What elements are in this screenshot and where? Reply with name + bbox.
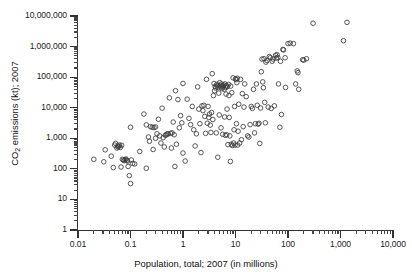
scatter-point (173, 164, 178, 169)
scatter-point (209, 130, 214, 135)
scatter-point (188, 122, 193, 127)
scatter-point (229, 90, 234, 95)
x-tick-minor (118, 230, 119, 234)
y-tick-label: 10,000,000 (25, 11, 67, 20)
y-tick-major (70, 199, 78, 200)
scatter-point (214, 131, 219, 136)
scatter-point (126, 164, 131, 169)
scatter-point (173, 88, 178, 93)
scatter-point (242, 105, 247, 110)
x-tick-minor (232, 230, 233, 234)
scatter-point (193, 144, 198, 149)
scatter-point (225, 107, 230, 112)
scatter-point (263, 121, 268, 126)
scatter-point (167, 96, 172, 101)
scatter-point (199, 150, 204, 155)
x-tick-minor (180, 230, 181, 234)
x-tick-minor (365, 230, 366, 234)
scatter-point (254, 82, 259, 87)
scatter-point (190, 104, 195, 109)
x-tick-minor (219, 230, 220, 234)
x-tick-minor (377, 230, 378, 234)
scatter-point (257, 141, 262, 146)
scatter-point (296, 87, 301, 92)
scatter-point (203, 131, 208, 136)
scatter-point (236, 102, 241, 107)
y-tick-major (70, 46, 78, 47)
scatter-point (345, 20, 350, 25)
scatter-point (276, 82, 281, 87)
x-tick-minor (356, 230, 357, 234)
scatter-point (194, 132, 199, 137)
x-tick-minor (384, 230, 385, 234)
scatter-point (212, 81, 217, 86)
y-tick-major (70, 107, 78, 108)
x-tick-minor (267, 230, 268, 234)
x-tick-major (287, 230, 288, 238)
scatter-point (195, 85, 200, 90)
x-tick-minor (372, 230, 373, 234)
x-tick-minor (328, 230, 329, 234)
y-tick-major (70, 15, 78, 16)
x-tick-minor (146, 230, 147, 234)
scatter-point (119, 165, 124, 170)
x-tick-major (340, 230, 341, 238)
x-tick-label: 1,000 (330, 240, 351, 249)
scatter-point (261, 85, 266, 90)
scatter-point (109, 154, 114, 159)
x-tick-major (235, 230, 236, 238)
x-tick-major (130, 230, 131, 238)
scatter-point (185, 97, 190, 102)
y-tick-major (70, 168, 78, 169)
scatter-markers (78, 16, 393, 230)
x-tick-minor (276, 230, 277, 234)
y-axis-title-prefix: CO (9, 152, 20, 166)
scatter-point (216, 91, 221, 96)
scatter-point (128, 181, 133, 186)
x-axis-title: Population, total; 2007 (in millions) (0, 258, 412, 269)
x-tick-minor (207, 230, 208, 234)
scatter-point (291, 41, 296, 46)
x-tick-minor (251, 230, 252, 234)
x-tick-minor (227, 230, 228, 234)
scatter-point (247, 135, 252, 140)
scatter-point (127, 173, 132, 178)
scatter-point (211, 93, 216, 98)
x-tick-minor (155, 230, 156, 234)
y-tick-label: 1,000 (46, 133, 67, 142)
scatter-point (128, 125, 133, 130)
scatter-point (201, 108, 206, 113)
scatter-point (178, 113, 183, 118)
x-tick-minor (214, 230, 215, 234)
x-tick-label: 0.1 (125, 240, 137, 249)
scatter-point (311, 21, 316, 26)
scatter-point (176, 97, 181, 102)
y-tick-label: 1,000,000 (30, 42, 67, 51)
x-tick-minor (167, 230, 168, 234)
scatter-point (160, 106, 165, 111)
x-tick-minor (127, 230, 128, 234)
scatter-point (227, 115, 232, 120)
x-tick-minor (260, 230, 261, 234)
scatter-point (252, 131, 257, 136)
plot-area (78, 16, 393, 230)
x-tick-minor (198, 230, 199, 234)
x-tick-label: 100 (281, 240, 295, 249)
scatter-point (279, 112, 284, 117)
scatter-point (180, 121, 185, 126)
y-tick-label: 100 (53, 164, 67, 173)
scatter-point (102, 160, 107, 165)
x-tick-major (77, 230, 78, 238)
scatter-point (142, 112, 147, 117)
x-tick-minor (324, 230, 325, 234)
scatter-point (228, 134, 233, 139)
scatter-point (228, 159, 233, 164)
scatter-point (259, 69, 264, 74)
x-tick-label: 0.01 (70, 240, 86, 249)
scatter-point (177, 126, 182, 131)
scatter-point (183, 159, 188, 164)
x-tick-minor (381, 230, 382, 234)
x-tick-minor (285, 230, 286, 234)
x-tick-major (392, 230, 393, 238)
scatter-point (242, 82, 247, 87)
